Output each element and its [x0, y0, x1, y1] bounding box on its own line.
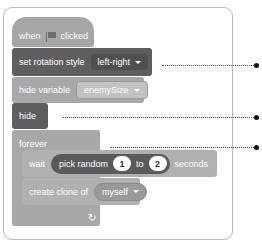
reporter-label: pick random [59, 159, 108, 169]
callout-dot-hide [254, 115, 259, 120]
loop-arrow-icon: ↻ [88, 212, 96, 223]
wait-block[interactable]: wait pick random 1 to 2 seconds [22, 150, 217, 177]
set-rotation-style-block[interactable]: set rotation style left-right [12, 48, 152, 76]
green-flag-icon [46, 32, 56, 41]
when-flag-clicked-block[interactable]: when clicked [12, 17, 94, 47]
block-label: wait [29, 159, 45, 169]
block-label: forever [19, 139, 47, 149]
callout-leader-rotation [162, 65, 258, 66]
hide-variable-block[interactable]: hide variable enemySize [12, 77, 144, 103]
variable-dropdown[interactable]: enemySize [76, 81, 148, 99]
callout-leader-hide [63, 117, 258, 118]
create-clone-block[interactable]: create clone of myself [22, 178, 140, 205]
random-from-input[interactable]: 1 [113, 156, 131, 171]
callout-dot-forever [254, 145, 259, 150]
pick-random-reporter[interactable]: pick random 1 to 2 [51, 154, 170, 174]
hide-block[interactable]: hide [12, 103, 48, 129]
chevron-down-icon [133, 190, 139, 193]
clone-target-dropdown[interactable]: myself [94, 183, 147, 201]
block-label: hide [19, 111, 36, 121]
random-to-input[interactable]: 2 [149, 156, 167, 171]
hat-label-clicked: clicked [61, 31, 89, 41]
block-label: set rotation style [19, 57, 85, 67]
hat-label-when: when [19, 31, 41, 41]
dropdown-value: left-right [98, 57, 131, 67]
dropdown-value: enemySize [84, 85, 129, 95]
callout-dot-rotation [254, 63, 259, 68]
block-label: hide variable [19, 85, 70, 95]
dropdown-value: myself [102, 187, 128, 197]
seconds-label: seconds [175, 159, 209, 169]
block-label: create clone of [29, 187, 88, 197]
chevron-down-icon [134, 89, 140, 92]
chevron-down-icon [135, 61, 141, 64]
rotation-style-dropdown[interactable]: left-right [91, 54, 149, 70]
reporter-to-label: to [136, 159, 144, 169]
callout-leader-forever [110, 147, 258, 148]
